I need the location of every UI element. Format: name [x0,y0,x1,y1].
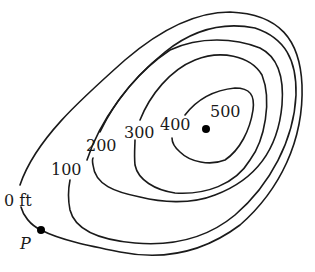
contour-map: 0 ft 100 200 300 400 500 P [0,0,315,272]
label-0ft: 0 ft [4,191,32,210]
label-500: 500 [210,102,241,121]
label-300: 300 [124,123,155,142]
point-p [37,226,45,234]
label-100: 100 [51,160,82,179]
label-p: P [19,234,31,253]
label-200: 200 [86,136,117,155]
label-400: 400 [160,115,191,134]
summit-point [202,125,210,133]
